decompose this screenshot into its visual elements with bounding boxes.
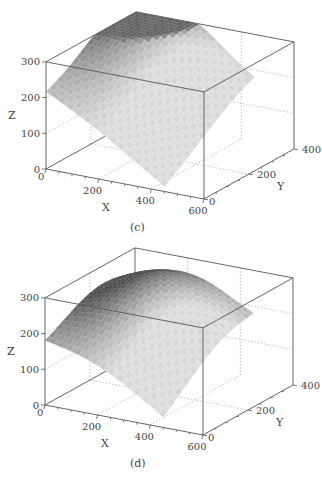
x-tick-label: 600 bbox=[188, 205, 207, 216]
x-tick bbox=[45, 169, 46, 173]
x-tick-label: 400 bbox=[136, 195, 155, 206]
x-tick-label: 200 bbox=[82, 421, 101, 432]
x-tick bbox=[150, 189, 151, 193]
surface-plot-d: 010020030002004006000200400ZXY(d) bbox=[0, 240, 322, 481]
y-tick-label: 200 bbox=[257, 169, 276, 180]
y-tick-label: 400 bbox=[302, 144, 321, 155]
x-axis-label: X bbox=[101, 437, 109, 450]
y-tick-label: 200 bbox=[256, 405, 275, 416]
y-tick bbox=[204, 199, 208, 200]
chart-panel-c: 010020030002004006000200400ZXY(c) bbox=[0, 0, 322, 240]
y-tick-label: 0 bbox=[209, 196, 215, 207]
x-axis-label: X bbox=[102, 201, 110, 214]
x-tick-label: 0 bbox=[38, 171, 44, 182]
y-tick bbox=[294, 149, 298, 150]
x-tick bbox=[97, 415, 98, 419]
y-tick bbox=[248, 410, 252, 411]
z-tick-label: 300 bbox=[20, 292, 39, 303]
y-axis-label: Y bbox=[275, 416, 284, 429]
z-axis-label: Z bbox=[7, 345, 15, 358]
x-tick bbox=[98, 179, 99, 183]
chart-panel-d: 010020030002004006000200400ZXY(d) bbox=[0, 240, 322, 481]
surface-plot-c: 010020030002004006000200400ZXY(c) bbox=[0, 0, 322, 240]
z-tick-label: 300 bbox=[21, 56, 40, 67]
y-tick bbox=[249, 174, 253, 175]
x-tick-label: 600 bbox=[187, 441, 206, 452]
z-tick-label: 100 bbox=[21, 128, 40, 139]
surface-mesh bbox=[46, 12, 255, 187]
y-tick-label: 0 bbox=[208, 432, 214, 443]
y-tick bbox=[203, 435, 207, 436]
x-tick bbox=[44, 405, 45, 409]
z-tick-label: 200 bbox=[21, 92, 40, 103]
y-tick bbox=[293, 385, 297, 386]
x-tick bbox=[203, 199, 204, 203]
z-axis-label: Z bbox=[8, 109, 16, 122]
y-tick-label: 400 bbox=[301, 380, 320, 391]
panel-caption: (d) bbox=[130, 457, 146, 470]
x-tick-label: 200 bbox=[83, 185, 102, 196]
x-tick bbox=[202, 435, 203, 439]
y-axis-label: Y bbox=[276, 180, 285, 193]
z-tick-label: 100 bbox=[20, 364, 39, 375]
x-tick-label: 400 bbox=[135, 431, 154, 442]
x-tick bbox=[149, 425, 150, 429]
z-tick-label: 200 bbox=[20, 328, 39, 339]
x-tick-label: 0 bbox=[37, 407, 43, 418]
panel-caption: (c) bbox=[130, 221, 145, 234]
surface-mesh bbox=[45, 270, 254, 417]
